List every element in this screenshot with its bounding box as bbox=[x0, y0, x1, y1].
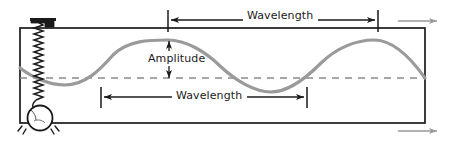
wave-curve bbox=[20, 40, 425, 92]
coil-spring-icon bbox=[33, 22, 43, 107]
amplitude-label: Amplitude bbox=[148, 53, 205, 64]
wavelength-bottom-label: Wavelength bbox=[176, 90, 242, 101]
diagram-canvas bbox=[0, 0, 449, 147]
wave-diagram-figure: Wavelength Wavelength Amplitude bbox=[0, 0, 449, 147]
wavelength-top-label: Wavelength bbox=[247, 10, 313, 21]
hanging-mass-icon bbox=[18, 106, 59, 135]
